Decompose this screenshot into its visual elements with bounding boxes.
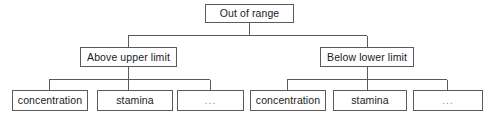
- node-leaf-stamina-upper[interactable]: stamina: [97, 90, 173, 111]
- node-leaf-ellipsis-upper-label: ...: [203, 96, 218, 106]
- node-root-label: Out of range: [218, 8, 282, 19]
- node-root[interactable]: Out of range: [205, 4, 294, 23]
- node-below-lower-limit[interactable]: Below lower limit: [320, 47, 414, 67]
- node-leaf-ellipsis-lower[interactable]: ...: [413, 90, 483, 111]
- node-leaf-concentration-upper-label: concentration: [16, 95, 84, 106]
- node-leaf-concentration-lower-label: concentration: [254, 95, 322, 106]
- node-above-upper-limit[interactable]: Above upper limit: [80, 47, 177, 67]
- node-leaf-stamina-upper-label: stamina: [114, 95, 155, 106]
- node-leaf-concentration-lower[interactable]: concentration: [250, 90, 326, 111]
- node-above-upper-limit-label: Above upper limit: [85, 52, 172, 63]
- diagram-canvas: Out of range Above upper limit Below low…: [0, 0, 499, 121]
- node-leaf-concentration-upper[interactable]: concentration: [12, 90, 88, 111]
- node-leaf-ellipsis-upper[interactable]: ...: [177, 90, 244, 111]
- node-leaf-stamina-lower[interactable]: stamina: [333, 90, 407, 111]
- node-below-lower-limit-label: Below lower limit: [325, 52, 409, 63]
- node-leaf-ellipsis-lower-label: ...: [440, 96, 455, 106]
- node-leaf-stamina-lower-label: stamina: [349, 95, 390, 106]
